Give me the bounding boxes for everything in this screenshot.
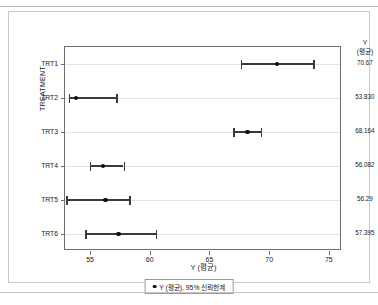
value-label-trt6: 57.395 (343, 229, 378, 236)
error-bar-cap (261, 128, 262, 137)
error-bar-cap (129, 196, 130, 205)
error-bar-cap (156, 230, 157, 239)
y-axis-tick-label-trt4: TRT4 (41, 162, 58, 169)
y-axis-tick-label-trt2: TRT2 (41, 94, 58, 101)
x-axis-tick (90, 251, 91, 255)
x-axis-tick-label: 60 (146, 256, 154, 263)
value-label-trt5: 56.29 (343, 195, 378, 202)
legend-label: Y (평균), 95% 신뢰한계 (159, 282, 225, 292)
right-column-header-line2: (평균) (343, 47, 378, 56)
y-axis-title: TREATMENT (39, 66, 46, 111)
value-label-trt2: 53.830 (343, 93, 378, 100)
y-axis-tick-label-trt6: TRT6 (41, 230, 58, 237)
y-axis-tick-label-trt1: TRT1 (41, 60, 58, 67)
top-divider (0, 6, 378, 7)
chart-container: TREATMENT Y (평균) 5560657075TRT1TRT2TRT3T… (8, 11, 370, 283)
y-axis-tick (61, 132, 65, 133)
right-column-header: Y (평균) (343, 38, 378, 56)
bottom-divider (0, 292, 378, 293)
y-axis-tick (61, 166, 65, 167)
x-axis-tick-label: 55 (86, 256, 94, 263)
gridline (65, 132, 340, 133)
data-point-trt2 (74, 96, 79, 101)
error-bar-cap (241, 60, 242, 69)
error-bar-cap (124, 162, 125, 171)
error-bar-cap (116, 94, 117, 103)
legend-marker-icon (153, 285, 157, 289)
data-point-trt6 (116, 232, 121, 237)
x-axis-tick (269, 251, 270, 255)
y-axis-tick (61, 200, 65, 201)
x-axis-title: Y (평균) (65, 261, 342, 272)
error-bar-cap (313, 60, 314, 69)
error-bar-cap (233, 128, 234, 137)
plot-area: TREATMENT Y (평균) 5560657075TRT1TRT2TRT3T… (64, 46, 341, 250)
error-bar-cap (66, 196, 67, 205)
y-axis-tick (61, 64, 65, 65)
error-bar-cap (90, 162, 91, 171)
error-bar-cap (85, 230, 86, 239)
y-axis-tick-label-trt3: TRT3 (41, 128, 58, 135)
y-axis-tick (61, 98, 65, 99)
value-label-trt3: 68.164 (343, 127, 378, 134)
x-axis-tick-label: 65 (206, 256, 214, 263)
value-label-trt4: 56.082 (343, 161, 378, 168)
right-column-header-line1: Y (343, 38, 378, 47)
x-axis-tick (329, 251, 330, 255)
data-point-trt5 (103, 198, 108, 203)
data-point-trt4 (101, 164, 106, 169)
error-bar-cap (69, 94, 70, 103)
x-axis-tick (209, 251, 210, 255)
y-axis-tick-label-trt5: TRT5 (41, 196, 58, 203)
value-label-trt1: 70.67 (343, 59, 378, 66)
error-bar (66, 199, 129, 200)
error-bar (90, 165, 123, 166)
x-axis-tick (150, 251, 151, 255)
y-axis-tick (61, 234, 65, 235)
data-point-trt1 (275, 62, 280, 67)
x-axis-tick-label: 75 (325, 256, 333, 263)
data-point-trt3 (245, 130, 250, 135)
x-axis-tick-label: 70 (265, 256, 273, 263)
